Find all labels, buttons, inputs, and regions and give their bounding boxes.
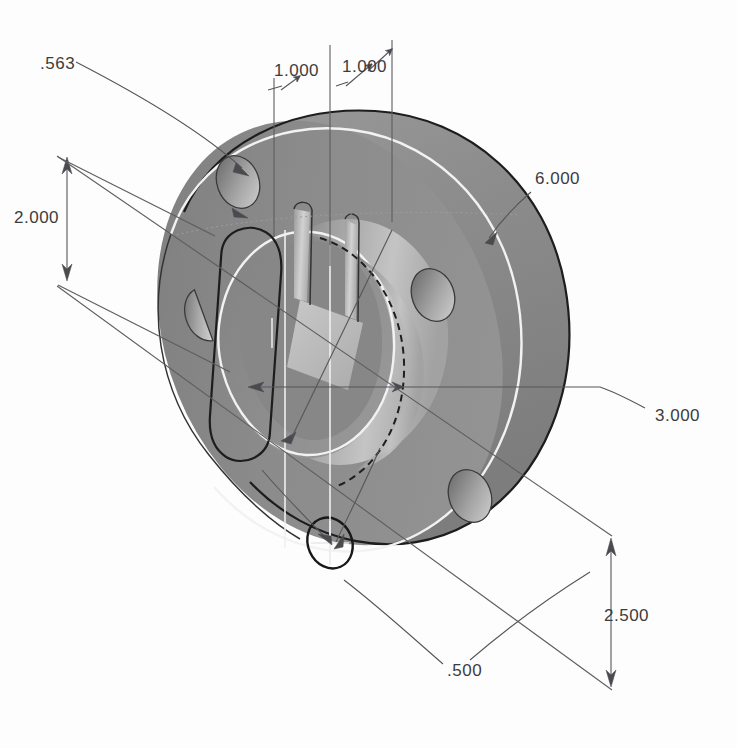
dimension-label-1000-right: 1.000 xyxy=(342,57,387,76)
dimension-label-6000: 6.000 xyxy=(535,169,580,188)
dimension-label-500: .500 xyxy=(447,661,482,680)
dimension-label-2000: 2.000 xyxy=(14,208,59,227)
dimension-label-2500: 2.500 xyxy=(604,606,649,625)
dimension-label-563: .563 xyxy=(40,54,75,73)
cad-drawing-canvas: .563 1.000 1.000 6.000 2.000 3.000 2.500… xyxy=(0,0,737,748)
dimension-label-3000: 3.000 xyxy=(655,406,700,425)
dimension-label-1000-left: 1.000 xyxy=(274,61,319,80)
isometric-cad-drawing: .563 1.000 1.000 6.000 2.000 3.000 2.500… xyxy=(0,0,737,748)
